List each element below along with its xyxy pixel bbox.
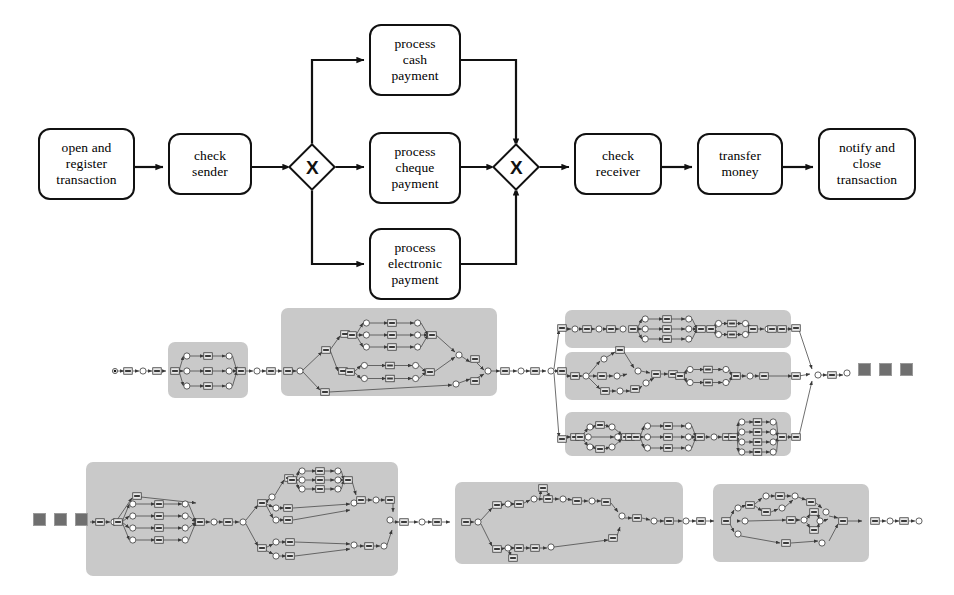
petri-place [916,518,922,524]
petri-transition [96,519,105,526]
petri-transition [388,344,397,351]
petri-arc [436,335,455,352]
petri-arc [649,378,654,381]
petri-arc [461,356,470,362]
petri-transition [155,501,164,508]
petri-transition [807,499,816,506]
petri-arc [829,516,838,518]
petri-transition [386,362,395,369]
petri-transition [732,373,741,380]
petri-place [226,353,232,359]
petri-place [184,368,190,374]
petri-transition [284,517,293,524]
petri-transition [462,519,471,526]
petri-place [644,423,650,429]
petri-place [299,486,305,492]
petri-place [686,316,692,322]
petri-arc [330,350,338,371]
petri-place [415,344,421,350]
petri-place [583,373,589,379]
petri-transition [357,497,366,504]
petri-place [687,379,693,385]
petri-arc [554,540,608,547]
ellipsis-square [900,363,913,376]
petri-arc [179,371,183,386]
petri-arc [637,329,642,339]
petri-arc [748,520,786,521]
petri-transition [609,535,618,542]
petri-transition [196,519,205,526]
petri-transition [596,422,605,429]
petri-arc [589,361,600,374]
petri-transition [900,518,909,525]
petri-place [184,383,190,389]
petri-place [739,439,745,445]
petri-arc [692,329,697,339]
petri-transition [204,368,213,375]
petri-transition [753,439,762,446]
petri-transition [792,373,801,380]
petri-arc [611,503,618,512]
petri-place [182,525,188,531]
petri-transition [787,517,796,524]
petri-place [770,429,776,435]
petri-place [642,316,648,322]
petri-transition [663,336,672,343]
petri-place [609,444,615,450]
petri-place [456,352,462,358]
petri-place [779,505,785,511]
petri-arc [179,356,183,371]
petri-transition [124,368,133,375]
petri-transition [204,353,213,360]
petri-place [182,513,188,519]
petri-arc [293,504,350,508]
petri-place [485,368,491,374]
petri-place [792,493,798,499]
petri-transition [664,434,673,441]
petri-transition [316,468,325,475]
ellipsis-square [879,363,892,376]
petri-transition [792,325,801,332]
petri-arc [233,356,237,371]
petri-transition [828,372,837,379]
petri-net-drawing [0,0,954,595]
petri-place [817,518,823,524]
petri-place [742,331,748,337]
petri-arc [481,524,492,546]
petri-transition [728,331,737,338]
petri-place [615,434,621,440]
petri-transition [601,388,610,395]
petri-arc [692,319,697,329]
petri-arc [303,372,320,390]
petri-arc [330,336,340,350]
petri-place [505,501,511,507]
petri-arc [275,480,284,495]
petri-place [685,434,691,440]
petri-transition [531,368,540,375]
petri-place [735,505,741,511]
petri-arc [554,330,559,369]
petri-place [815,372,821,378]
petri-arc [771,509,778,512]
petri-place [739,449,745,455]
petri-transition [316,486,325,493]
petri-place [531,496,537,502]
petri-transition [704,379,713,386]
petri-arc [303,352,322,370]
petri-place [642,336,648,342]
petri-place [351,500,357,506]
petri-transition [153,368,162,375]
petri-place [560,496,566,502]
petri-transition [155,537,164,544]
petri-arc [354,372,361,379]
petri-place [711,434,717,440]
petri-transition [676,373,685,380]
petri-arc [421,323,428,335]
petri-place [620,326,626,332]
petri-arc [799,374,810,376]
petri-place [211,519,217,525]
petri-arc [246,524,258,546]
petri-transition [631,386,640,393]
petri-transition [663,326,672,333]
petri-transition [768,326,777,333]
